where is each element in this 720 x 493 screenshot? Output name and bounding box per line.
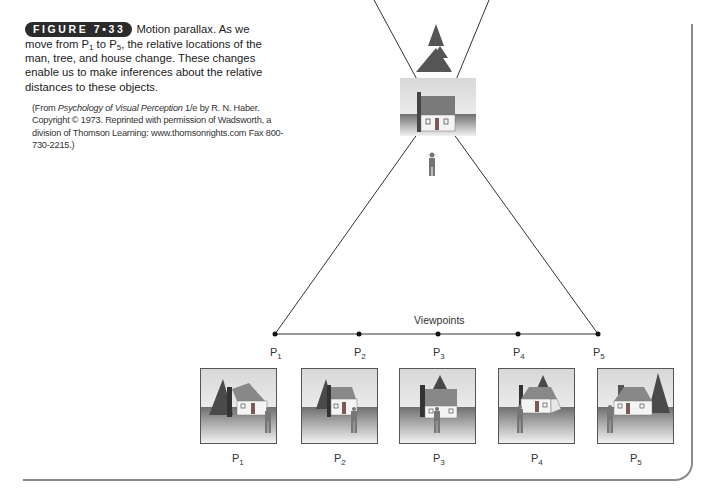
tree-icon [416,24,452,72]
thumbnail-label-p3: P3 [433,452,445,464]
viewpoint-label-p2: P2 [354,346,366,358]
thumbnail-p4 [498,368,575,444]
house-scene [400,78,476,136]
viewpoint-label-p1: P1 [270,346,282,358]
thumbnail-p1 [200,368,277,444]
viewpoints-label: Viewpoints [414,314,465,326]
man-icon [429,153,435,177]
thumbnail-p2 [301,368,378,444]
thumbnail-label-p4: P4 [531,452,543,464]
thumbnail-p3 [399,368,476,444]
thumbnail-label-p1: P1 [232,452,244,464]
viewpoint-label-p5: P5 [593,346,605,358]
viewpoint-label-p4: P4 [513,346,525,358]
thumbnail-label-p2: P2 [334,452,346,464]
viewpoint-label-p3: P3 [433,346,445,358]
thumbnail-label-p5: P5 [630,452,642,464]
thumbnail-p5 [597,368,674,444]
